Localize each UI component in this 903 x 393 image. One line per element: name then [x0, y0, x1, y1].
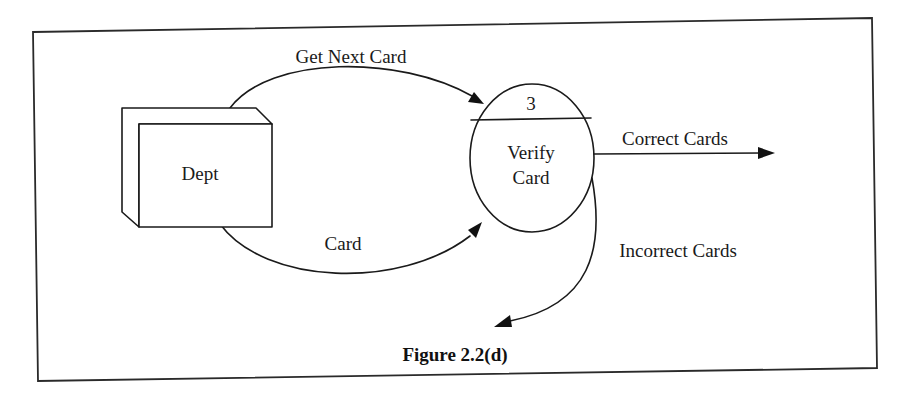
flow-get-next-card-line [230, 67, 472, 108]
flow-label-get-next-card: Get Next Card [296, 46, 407, 67]
figure-caption: Figure 2.2(d) [402, 344, 507, 366]
process-label-line2: Card [513, 167, 550, 188]
diagram-canvas: Get Next Card Card Dept 3 Verify Card Co… [0, 0, 903, 393]
flow-label-card: Card [325, 233, 362, 254]
flow-get-next-card: Get Next Card [230, 46, 484, 108]
flow-correct-cards-line [594, 153, 762, 154]
flow-card: Card [220, 222, 482, 273]
flow-label-incorrect-cards: Incorrect Cards [619, 240, 737, 261]
external-entity-dept: Dept [122, 108, 272, 227]
process-verify-card: 3 Verify Card [470, 84, 594, 232]
process-number: 3 [526, 93, 536, 114]
entity-label: Dept [182, 163, 220, 184]
flow-label-correct-cards: Correct Cards [622, 128, 728, 149]
arrowhead-icon [758, 147, 775, 159]
process-label-line1: Verify [507, 142, 555, 163]
arrowhead-icon [494, 315, 512, 327]
arrowhead-icon [468, 92, 484, 104]
flow-correct-cards: Correct Cards [594, 128, 775, 159]
